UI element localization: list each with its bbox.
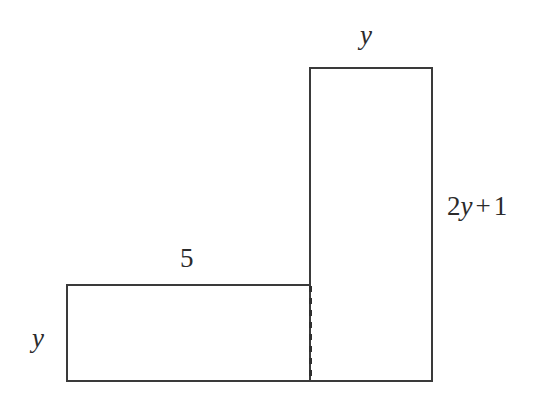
expression-plus-operator: +: [472, 191, 493, 221]
wide-rectangle-shape: [67, 285, 310, 381]
expression-constant: 1: [494, 191, 508, 221]
expression-variable: y: [461, 191, 473, 221]
geometry-figure: y 2y+1 5 y: [0, 0, 551, 406]
tall-rectangle-shape: [310, 68, 432, 381]
label-tall-rectangle-width: y: [360, 22, 372, 49]
expression-coefficient: 2: [447, 191, 461, 221]
label-wide-rectangle-height: y: [32, 325, 44, 352]
label-tall-rectangle-height: 2y+1: [447, 193, 507, 220]
label-wide-rectangle-width: 5: [180, 245, 194, 272]
